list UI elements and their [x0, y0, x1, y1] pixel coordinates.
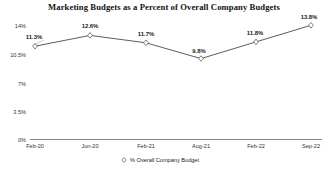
data-point-marker-aug-21[interactable] — [199, 56, 204, 62]
data-point-marker-feb-21[interactable] — [144, 40, 149, 46]
data-labels: 11.3% 12.6% 11.7% 9.8% 11.8% 13.8% — [26, 14, 318, 54]
x-tick-label-feb-21: Feb-21 — [137, 143, 155, 149]
data-point-marker-jun-20[interactable] — [88, 33, 93, 39]
series-markers — [33, 23, 314, 62]
y-tick-label-3-5: 3.5% — [13, 109, 26, 115]
y-tick-label-7: 7% — [18, 81, 26, 87]
data-label-aug-21: 9.8% — [192, 48, 206, 54]
line-chart-plot: 14% 10.5% 7% 3.5% 0% 11.3% 12.6% 11.7% 9… — [0, 0, 328, 185]
data-label-jun-20: 12.6% — [82, 23, 99, 29]
chart-legend[interactable]: % Overall Company Budget — [122, 157, 200, 163]
data-label-feb-22: 11.8% — [247, 30, 264, 36]
data-label-feb-21: 11.7% — [138, 31, 155, 37]
legend-label-overall-company-budget: % Overall Company Budget — [130, 157, 199, 163]
x-tick-label-feb-22: Feb-22 — [247, 143, 265, 149]
legend-open-diamond-icon — [122, 158, 126, 163]
y-tick-label-14: 14% — [15, 23, 26, 29]
x-tick-label-aug-21: Aug-21 — [192, 143, 210, 149]
data-label-feb-20: 11.3% — [26, 34, 43, 40]
y-axis: 14% 10.5% 7% 3.5% 0% — [10, 23, 26, 143]
y-tick-label-0: 0% — [18, 137, 26, 143]
x-axis: Feb-20 Jun-20 Feb-21 Aug-21 Feb-22 Sep-2… — [26, 143, 320, 149]
x-tick-label-feb-20: Feb-20 — [26, 143, 44, 149]
data-point-marker-feb-22[interactable] — [254, 39, 259, 45]
data-label-sep-22: 13.8% — [301, 14, 318, 20]
x-tick-label-sep-22: Sep-22 — [302, 143, 320, 149]
series-line-overall-company-budget — [35, 25, 311, 58]
chart-container: Marketing Budgets as a Percent of Overal… — [0, 0, 328, 185]
x-tick-label-jun-20: Jun-20 — [81, 143, 98, 149]
data-point-marker-sep-22[interactable] — [309, 23, 314, 29]
y-tick-label-10-5: 10.5% — [10, 52, 26, 58]
